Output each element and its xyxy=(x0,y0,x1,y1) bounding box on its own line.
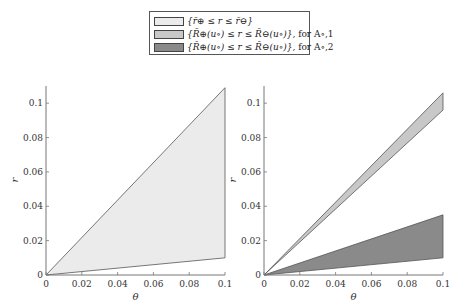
x-tick-label: 0.02 xyxy=(72,279,92,289)
x-tick-label: 0.02 xyxy=(290,279,310,289)
y-tick-label: 0.1 xyxy=(29,98,43,108)
x-tick-label: 0 xyxy=(261,279,267,289)
x-axis-label: θ xyxy=(350,291,356,302)
y-axis-label: r xyxy=(227,176,238,182)
x-tick-label: 0.08 xyxy=(179,279,199,289)
x-tick-label: 0 xyxy=(43,279,49,289)
y-tick-label: 0 xyxy=(255,270,261,280)
y-tick-label: 0.08 xyxy=(241,133,261,143)
plot-panel-1: 00.020.040.060.080.100.020.040.060.080.1… xyxy=(9,86,232,302)
x-tick-label: 0.08 xyxy=(397,279,417,289)
x-tick-label: 0.06 xyxy=(361,279,381,289)
y-tick-label: 0.1 xyxy=(247,98,261,108)
series-area-2 xyxy=(264,215,443,275)
y-tick-label: 0.06 xyxy=(23,167,43,177)
x-tick-label: 0.1 xyxy=(436,279,450,289)
y-axis-label: r xyxy=(9,176,20,182)
x-tick-label: 0.1 xyxy=(218,279,232,289)
y-tick-label: 0.02 xyxy=(23,236,43,246)
y-tick-label: 0.08 xyxy=(23,133,43,143)
y-tick-label: 0.04 xyxy=(241,201,261,211)
series-area-1 xyxy=(46,88,225,275)
x-axis-label: θ xyxy=(132,291,138,302)
x-tick-label: 0.04 xyxy=(326,279,346,289)
x-tick-label: 0.06 xyxy=(143,279,163,289)
y-tick-label: 0.04 xyxy=(23,201,43,211)
x-tick-label: 0.04 xyxy=(108,279,128,289)
plot-panel-2: 00.020.040.060.080.100.020.040.060.080.1… xyxy=(227,86,450,302)
y-tick-label: 0.06 xyxy=(241,167,261,177)
y-tick-label: 0.02 xyxy=(241,236,261,246)
y-tick-label: 0 xyxy=(37,270,43,280)
chart-area: 00.020.040.060.080.100.020.040.060.080.1… xyxy=(0,0,460,304)
